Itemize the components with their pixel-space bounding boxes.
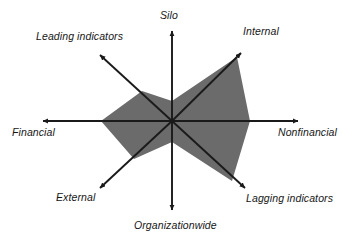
- axis-label-internal: Internal: [243, 26, 279, 37]
- axes-group: [43, 31, 298, 210]
- axis-label-external: External: [56, 192, 95, 203]
- axis-label-nonfinancial: Nonfinancial: [278, 127, 337, 138]
- axis-label-lagging-indicators: Lagging indicators: [246, 193, 333, 204]
- diagram-canvas: Silo Internal Nonfinancial Lagging indic…: [0, 0, 349, 245]
- axis-label-financial: Financial: [12, 127, 55, 138]
- axis-label-leading-indicators: Leading indicators: [36, 31, 123, 42]
- axis-label-silo: Silo: [160, 10, 178, 21]
- axis-label-organizationwide: Organizationwide: [134, 220, 217, 231]
